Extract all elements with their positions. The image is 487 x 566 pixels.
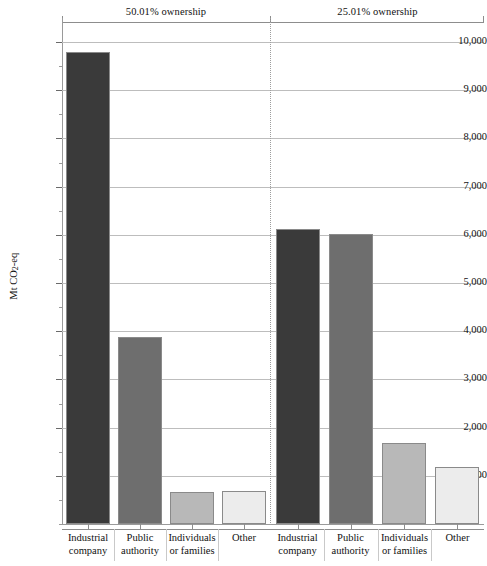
category-tick (404, 524, 405, 529)
category-label-panel-50-2: Individualsor families (166, 531, 218, 557)
y-axis-minor-tick (59, 524, 62, 525)
panel-title-25: 25.01% ownership (271, 6, 484, 17)
category-separator (431, 529, 432, 561)
y-axis-title-suffix: -eq (8, 253, 19, 266)
category-label-panel-25-3: Other (431, 531, 484, 544)
bar-panel-25-1 (329, 234, 373, 524)
category-label-line: Industrial (62, 531, 114, 544)
category-label-panel-25-0: Industrialcompany (271, 531, 324, 557)
category-label-line: authority (324, 544, 377, 557)
category-label-line: Industrial (271, 531, 324, 544)
category-axis-rule (62, 529, 484, 530)
category-label-panel-50-0: Industrialcompany (62, 531, 114, 557)
bar-panel-25-0 (276, 229, 320, 524)
category-label-panel-50-1: Publicauthority (114, 531, 166, 557)
bar-panel-50-2 (170, 492, 214, 524)
category-label-line: Public (324, 531, 377, 544)
category-tick (244, 524, 245, 529)
bar-chart: 50.01% ownership 25.01% ownership Mt CO2… (0, 0, 487, 566)
category-label-line: or families (166, 544, 218, 557)
bar-panel-50-1 (118, 337, 162, 524)
category-separator (166, 529, 167, 561)
bar-panel-50-3 (222, 491, 266, 524)
category-tick (351, 524, 352, 529)
category-label-panel-25-2: Individualsor families (378, 531, 431, 557)
bar-panel-25-3 (435, 467, 479, 524)
category-separator (378, 529, 379, 561)
category-tick (88, 524, 89, 529)
plot-area (62, 18, 484, 524)
category-label-line: Individuals (166, 531, 218, 544)
category-label-line: company (271, 544, 324, 557)
category-label-line: Individuals (378, 531, 431, 544)
x-axis-line (62, 524, 484, 525)
category-tick (192, 524, 193, 529)
category-label-line: company (62, 544, 114, 557)
category-tick (140, 524, 141, 529)
bar-panel-50-0 (66, 52, 110, 524)
category-label-line: authority (114, 544, 166, 557)
category-tick (298, 524, 299, 529)
category-separator (114, 529, 115, 561)
y-axis-title-prefix: Mt CO (8, 270, 19, 299)
category-separator (324, 529, 325, 561)
category-tick (457, 524, 458, 529)
category-label-line: Other (218, 531, 270, 544)
category-label-line: Public (114, 531, 166, 544)
bar-panel-25-2 (382, 443, 426, 524)
panel-title-50: 50.01% ownership (62, 6, 270, 17)
category-label-panel-50-3: Other (218, 531, 270, 544)
y-axis-title: Mt CO2-eq (8, 236, 20, 316)
category-label-line: or families (378, 544, 431, 557)
category-separator (218, 529, 219, 561)
category-label-panel-25-1: Publicauthority (324, 531, 377, 557)
category-label-line: Other (431, 531, 484, 544)
y-axis-title-subscript: 2 (11, 266, 20, 270)
